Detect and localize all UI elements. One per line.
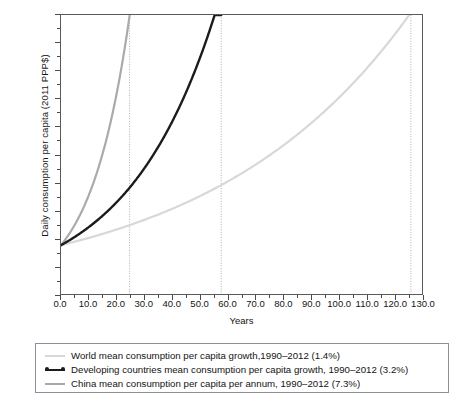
x-tick-mark — [255, 295, 256, 300]
chart-figure: Daily consumption per capita (2011 PPP$)… — [0, 0, 459, 401]
x-tick-mark-minor — [158, 295, 159, 298]
legend-entry[interactable]: China mean consumption per capita per an… — [45, 377, 448, 390]
x-tick-mark — [339, 295, 340, 300]
x-tick-mark-minor — [409, 295, 410, 298]
series-line-2 — [61, 16, 130, 245]
x-tick-mark-minor — [269, 295, 270, 298]
x-tick-mark-minor — [74, 295, 75, 298]
x-axis-title: Years — [60, 315, 423, 326]
x-tick-mark — [228, 295, 229, 300]
x-tick-mark — [60, 295, 61, 300]
series-line-1 — [61, 15, 221, 245]
x-tick-mark-minor — [297, 295, 298, 298]
x-tick-mark — [367, 295, 368, 300]
x-tick-mark-minor — [353, 295, 354, 298]
x-tick-mark — [116, 295, 117, 300]
legend-label: Developing countries mean consumption pe… — [71, 364, 408, 376]
x-tick-mark — [144, 295, 145, 300]
x-tick-mark — [88, 295, 89, 300]
chart-legend: World mean consumption per capita growth… — [35, 343, 449, 393]
x-tick-mark — [423, 295, 424, 300]
y-axis-title: Daily consumption per capita (2011 PPP$) — [39, 6, 50, 286]
legend-label: World mean consumption per capita growth… — [71, 350, 340, 362]
plot-area — [60, 14, 423, 295]
x-tick-mark — [200, 295, 201, 300]
x-tick-mark-minor — [325, 295, 326, 298]
line-swatch-light-icon — [45, 351, 65, 361]
x-tick-mark-minor — [214, 295, 215, 298]
series-line-0 — [61, 15, 411, 245]
x-tick-mark-minor — [381, 295, 382, 298]
x-tick-label: 130.0 — [403, 299, 443, 309]
x-tick-mark-minor — [102, 295, 103, 298]
x-tick-mark-minor — [242, 295, 243, 298]
x-tick-mark — [311, 295, 312, 300]
x-tick-mark-minor — [186, 295, 187, 298]
line-swatch-dark-icon — [45, 365, 65, 375]
x-tick-mark — [283, 295, 284, 300]
x-tick-mark — [395, 295, 396, 300]
legend-label: China mean consumption per capita per an… — [71, 378, 360, 390]
x-tick-mark — [172, 295, 173, 300]
legend-entry[interactable]: World mean consumption per capita growth… — [45, 349, 448, 362]
x-tick-mark-minor — [130, 295, 131, 298]
legend-entry[interactable]: Developing countries mean consumption pe… — [45, 363, 448, 376]
line-swatch-mid-icon — [45, 379, 65, 389]
plot-svg — [61, 15, 422, 294]
